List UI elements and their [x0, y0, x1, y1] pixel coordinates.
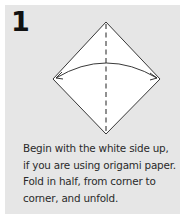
- origami-fold-diagram: [0, 0, 182, 140]
- instruction-line: Fold in half, from corner to: [23, 173, 181, 190]
- instruction-line: corner, and unfold.: [23, 190, 181, 207]
- step-instructions: Begin with the white side up, if you are…: [23, 140, 181, 206]
- instruction-line: if you are using origami paper.: [23, 157, 181, 174]
- instruction-line: Begin with the white side up,: [23, 140, 181, 157]
